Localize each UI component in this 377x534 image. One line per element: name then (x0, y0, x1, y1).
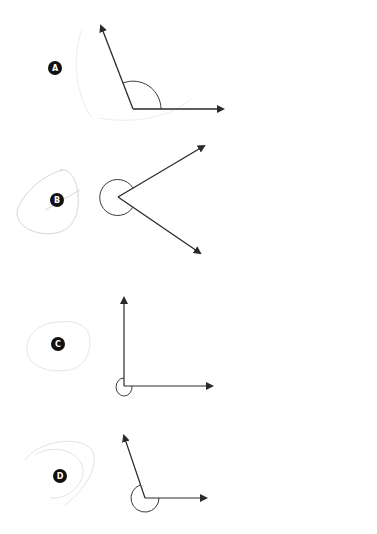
arc-b (100, 180, 133, 216)
ray-b-up (118, 146, 204, 197)
label-b[interactable]: B (50, 193, 64, 207)
angle-d: D (25, 436, 206, 512)
label-d-text: D (57, 472, 64, 481)
angle-c: C (27, 298, 212, 396)
angle-b: B (17, 146, 204, 253)
label-a-text: A (52, 64, 59, 73)
label-d[interactable]: D (53, 469, 67, 483)
scribble-a (76, 30, 190, 120)
angles-diagram: A B C D (0, 0, 377, 534)
label-a[interactable]: A (48, 61, 62, 75)
label-b-text: B (54, 196, 60, 205)
scribble-b (17, 170, 80, 234)
angle-a: A (48, 26, 223, 120)
ray-a-left (101, 26, 133, 109)
arc-a (123, 81, 161, 109)
ray-b-down (118, 197, 200, 253)
label-c-text: C (55, 340, 61, 349)
label-c[interactable]: C (51, 337, 65, 351)
